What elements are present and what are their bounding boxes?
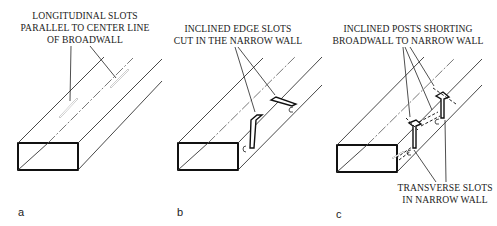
panel-b-caption-line-2: CUT IN THE NARROW WALL <box>174 35 302 46</box>
waveguide-b-inner-edge <box>178 143 208 170</box>
panel-b-leader-2 <box>238 47 275 95</box>
panel-c-label: c <box>336 208 342 220</box>
panel-b-leader-1 <box>235 47 255 112</box>
inclined-edge-slot-2 <box>271 97 296 112</box>
panel-b-caption-line-1: INCLINED EDGE SLOTS <box>185 23 292 34</box>
panel-a-leader-1 <box>70 46 71 101</box>
panel-a-leader-2 <box>90 46 116 78</box>
panel-c: INCLINED POSTS SHORTING BROADWALL TO NAR… <box>333 23 493 220</box>
panel-c-leader-5 <box>445 120 446 182</box>
waveguide-a-bottom-right-edge <box>78 81 162 170</box>
panel-a-caption-line-3: OF BROADWALL <box>47 34 123 45</box>
waveguide-a-front-face <box>18 143 78 170</box>
panel-c-leader-4 <box>414 150 436 182</box>
panel-a-caption-line-2: PARALLEL TO CENTER LINE <box>21 22 150 33</box>
panel-c-caption-line-2: BROADWALL TO NARROW WALL <box>333 35 484 46</box>
panel-c-bottom-caption-line-1: TRANSVERSE SLOTS <box>397 182 492 193</box>
panel-a-caption-line-1: LONGITUDINAL SLOTS <box>32 10 138 21</box>
panel-a: LONGITUDINAL SLOTS PARALLEL TO CENTER LI… <box>18 10 162 218</box>
waveguide-slot-diagram: LONGITUDINAL SLOTS PARALLEL TO CENTER LI… <box>0 0 497 226</box>
waveguide-a-inner-edge <box>18 143 48 170</box>
inclined-post-2 <box>433 88 456 124</box>
panel-c-leader-2 <box>405 47 432 110</box>
panel-b-label: b <box>177 206 183 218</box>
panel-c-bottom-caption-line-2: IN NARROW WALL <box>402 194 487 205</box>
panel-b: INCLINED EDGE SLOTS CUT IN THE NARROW WA… <box>174 23 322 218</box>
waveguide-a-top-right-edge <box>78 59 162 143</box>
waveguide-c-front-face <box>337 145 397 172</box>
panel-c-caption-line-1: INCLINED POSTS SHORTING <box>343 23 472 34</box>
inclined-edge-slot-1 <box>243 115 262 152</box>
waveguide-b <box>178 57 322 170</box>
panel-a-label: a <box>18 206 25 218</box>
waveguide-a <box>18 57 162 170</box>
waveguide-b-front-face <box>178 143 238 170</box>
waveguide-c-inner-edge <box>337 145 367 172</box>
